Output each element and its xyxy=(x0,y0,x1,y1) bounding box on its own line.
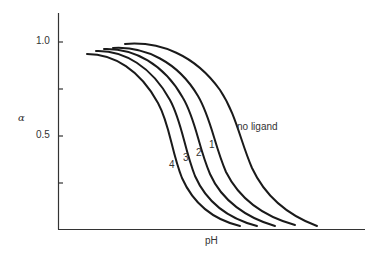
curve-label-1: 1 xyxy=(209,139,215,150)
curve-label-3: 3 xyxy=(183,152,189,163)
alpha-vs-ph-chart xyxy=(0,0,381,253)
curve-3 xyxy=(96,51,257,226)
curve-2 xyxy=(104,49,275,226)
axes xyxy=(58,13,365,230)
curve-4 xyxy=(87,54,240,226)
curve-label-2: 2 xyxy=(196,147,202,158)
curve-no-ligand xyxy=(125,44,317,226)
y-axis-label: α xyxy=(18,112,25,123)
curve-label-no-ligand: no ligand xyxy=(237,121,278,132)
x-axis-label: pH xyxy=(205,235,218,246)
curve-1 xyxy=(113,48,295,225)
curves xyxy=(87,44,317,226)
y-tick-label-0.5: 0.5 xyxy=(36,129,50,140)
y-tick-label-1.0: 1.0 xyxy=(36,35,50,46)
curve-label-4: 4 xyxy=(169,159,175,170)
